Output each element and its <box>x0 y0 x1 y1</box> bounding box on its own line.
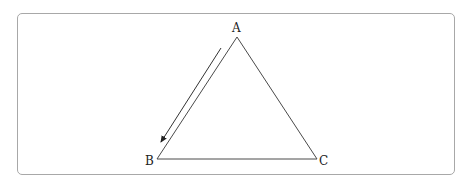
vertex-label-a: A <box>232 22 241 34</box>
triangle-abc <box>157 37 317 159</box>
vertex-label-c: C <box>319 155 328 167</box>
vertex-label-b: B <box>145 155 154 167</box>
direction-arrow <box>161 48 221 142</box>
